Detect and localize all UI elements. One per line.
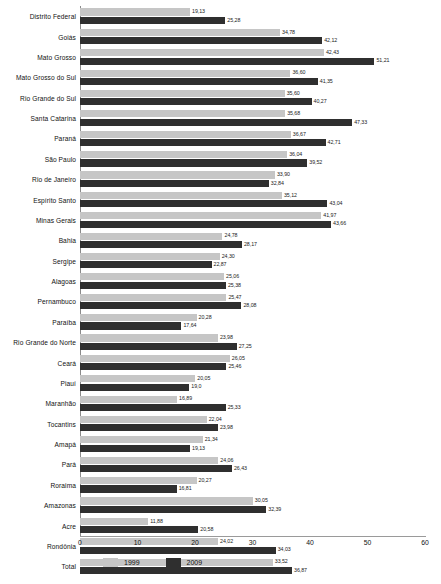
bar-value-label: 19,13 bbox=[192, 9, 205, 14]
bar-group-2009: 51,21 bbox=[80, 58, 425, 65]
bar-value-label: 17,64 bbox=[183, 323, 196, 328]
bar-group-1999: 23,98 bbox=[80, 334, 425, 341]
bar-group-1999: 34,78 bbox=[80, 29, 425, 36]
bar-value-label: 20,28 bbox=[199, 315, 212, 320]
bar-2009 bbox=[80, 302, 241, 309]
bar-group-1999: 25,06 bbox=[80, 273, 425, 280]
chart-row: Amapá21,3419,13 bbox=[80, 434, 425, 454]
bar-value-label: 35,12 bbox=[284, 193, 297, 198]
bar-group-2009: 25,33 bbox=[80, 404, 425, 411]
bar-group-2009: 25,28 bbox=[80, 17, 425, 24]
bar-1999 bbox=[80, 477, 197, 484]
bar-value-label: 33,52 bbox=[275, 559, 288, 564]
bar-value-label: 27,25 bbox=[239, 344, 252, 349]
bar-2009 bbox=[80, 506, 266, 513]
bar-2009 bbox=[80, 384, 189, 391]
chart-row: Mato Grosso do Sul36,6041,35 bbox=[80, 67, 425, 87]
category-label: Maranhão bbox=[46, 400, 77, 407]
chart-row: Mato Grosso42,4351,21 bbox=[80, 47, 425, 67]
bar-group-1999: 35,12 bbox=[80, 192, 425, 199]
bar-group-1999: 16,89 bbox=[80, 396, 425, 403]
bar-group-1999: 36,04 bbox=[80, 151, 425, 158]
bar-group-2009: 40,27 bbox=[80, 98, 425, 105]
bar-value-label: 20,05 bbox=[197, 376, 210, 381]
bar-2009 bbox=[80, 58, 374, 65]
chart-row: Maranhão16,8925,33 bbox=[80, 393, 425, 413]
bar-2009 bbox=[80, 221, 331, 228]
bar-2009 bbox=[80, 465, 232, 472]
chart-row: Piauí20,0519,0 bbox=[80, 373, 425, 393]
chart-row: Bahia24,7828,17 bbox=[80, 230, 425, 250]
bar-1999 bbox=[80, 70, 290, 77]
category-label: Amazonas bbox=[44, 502, 76, 509]
bar-2009 bbox=[80, 200, 327, 207]
category-label: Minas Gerais bbox=[36, 216, 76, 223]
bar-1999 bbox=[80, 8, 190, 15]
bar-value-label: 34,78 bbox=[282, 30, 295, 35]
category-label: Goiás bbox=[58, 33, 76, 40]
bar-2009 bbox=[80, 343, 237, 350]
chart-row: Paraíba20,2817,64 bbox=[80, 312, 425, 332]
chart-row: Rio de Janeiro33,9032,84 bbox=[80, 169, 425, 189]
chart-row: Sergipe24,3022,87 bbox=[80, 251, 425, 271]
category-label: Paraná bbox=[54, 135, 76, 142]
bar-value-label: 36,60 bbox=[292, 70, 305, 75]
bar-1999 bbox=[80, 49, 324, 56]
bar-value-label: 25,47 bbox=[228, 295, 241, 300]
bar-value-label: 25,46 bbox=[228, 364, 241, 369]
legend-swatch-2009 bbox=[166, 558, 181, 567]
bar-group-2009: 22,87 bbox=[80, 261, 425, 268]
bar-1999 bbox=[80, 192, 282, 199]
bar-value-label: 23,98 bbox=[220, 335, 233, 340]
bar-2009 bbox=[80, 17, 225, 24]
category-label: Amapá bbox=[55, 441, 76, 448]
category-label: Piauí bbox=[60, 379, 76, 386]
x-tick-label: 60 bbox=[421, 539, 429, 546]
chart-row: Minas Gerais41,9743,66 bbox=[80, 210, 425, 230]
bar-value-label: 42,12 bbox=[324, 38, 337, 43]
bar-1999 bbox=[80, 253, 220, 260]
bar-group-2009: 41,35 bbox=[80, 78, 425, 85]
bar-2009 bbox=[80, 159, 307, 166]
bar-group-2009: 43,04 bbox=[80, 200, 425, 207]
bar-2009 bbox=[80, 282, 226, 289]
chart-row: Rio Grande do Sul35,6040,27 bbox=[80, 88, 425, 108]
bar-1999 bbox=[80, 233, 222, 240]
bar-group-2009: 20,58 bbox=[80, 526, 425, 533]
bar-group-2009: 28,17 bbox=[80, 241, 425, 248]
bar-value-label: 25,28 bbox=[227, 18, 240, 23]
chart-row: Paraná36,6742,71 bbox=[80, 128, 425, 148]
bar-group-2009: 25,38 bbox=[80, 282, 425, 289]
chart-row: Pará24,0626,43 bbox=[80, 454, 425, 474]
bar-2009 bbox=[80, 180, 269, 187]
x-tick-label: 10 bbox=[134, 539, 142, 546]
category-label: Rio de Janeiro bbox=[32, 176, 76, 183]
category-label: Tocantins bbox=[47, 420, 76, 427]
bar-2009 bbox=[80, 98, 312, 105]
chart-row: Roraima20,2716,81 bbox=[80, 475, 425, 495]
bar-2009 bbox=[80, 241, 242, 248]
chart-legend: 1999 2009 bbox=[103, 558, 202, 567]
x-tick-label: 20 bbox=[191, 539, 199, 546]
bar-group-1999: 21,34 bbox=[80, 436, 425, 443]
bar-2009 bbox=[80, 526, 198, 533]
legend-item-2009: 2009 bbox=[166, 558, 203, 567]
bar-1999 bbox=[80, 436, 203, 443]
bar-value-label: 36,87 bbox=[294, 568, 307, 573]
bar-value-label: 22,87 bbox=[214, 262, 227, 267]
category-label: Paraíba bbox=[52, 318, 76, 325]
bar-value-label: 39,52 bbox=[309, 160, 322, 165]
chart-row: Acre11,8820,58 bbox=[80, 515, 425, 535]
bar-group-1999: 20,28 bbox=[80, 314, 425, 321]
category-label: Sergipe bbox=[53, 257, 76, 264]
bar-value-label: 30,05 bbox=[255, 498, 268, 503]
bar-2009 bbox=[80, 78, 318, 85]
bar-group-2009: 26,43 bbox=[80, 465, 425, 472]
category-label: Roraima bbox=[50, 481, 76, 488]
bar-1999 bbox=[80, 212, 321, 219]
bar-2009 bbox=[80, 37, 322, 44]
bar-group-1999: 35,68 bbox=[80, 110, 425, 117]
category-label: Rio Grande do Norte bbox=[13, 339, 76, 346]
bar-group-1999: 24,78 bbox=[80, 233, 425, 240]
chart-row: Santa Catarina35,6847,33 bbox=[80, 108, 425, 128]
